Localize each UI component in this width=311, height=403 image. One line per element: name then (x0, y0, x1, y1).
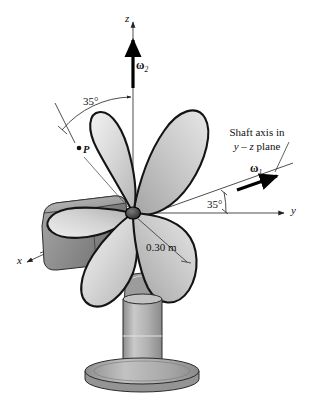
point-p-dot (77, 146, 82, 151)
radius-label: 0.30 m (146, 241, 177, 253)
fan-hub (126, 207, 141, 219)
angle-top-leader (55, 103, 75, 143)
omega1-arrow (237, 176, 277, 190)
omega1-vector (237, 176, 277, 190)
y-axis-label: y (291, 204, 296, 216)
angle-bottom-arc (224, 192, 226, 213)
omega2-label: ω2 (136, 59, 148, 75)
angle-top-label: 35° (83, 95, 98, 107)
omega1-label: ω1 (250, 162, 262, 178)
angle-top-tick (58, 126, 67, 134)
base-plate (85, 358, 199, 392)
figure-canvas (0, 0, 311, 403)
hub-ellipse (126, 207, 141, 219)
shaft-axis-note: Shaft axis in y – z plane (211, 126, 303, 154)
post-top-ellipse (123, 294, 162, 304)
omega2-subscript: 2 (144, 65, 148, 74)
angle-bottom-label: 35° (207, 198, 222, 210)
base-top-ellipse (85, 358, 199, 384)
shaft-note-plane: plane (254, 140, 281, 152)
fan-blade-upper-right (133, 110, 208, 214)
omega1-subscript: 1 (258, 168, 262, 177)
fan-assembly (42, 110, 208, 392)
z-axis-label: z (125, 12, 129, 24)
x-axis-label: x (17, 254, 22, 266)
shaft-note-dash: – (239, 140, 250, 152)
point-p-label: P (83, 144, 89, 156)
fan-kinematics-figure: z y x ω2 ω1 35° 35° 0.30 m P Shaft axis … (0, 0, 311, 403)
shaft-note-line1: Shaft axis in (230, 126, 285, 138)
